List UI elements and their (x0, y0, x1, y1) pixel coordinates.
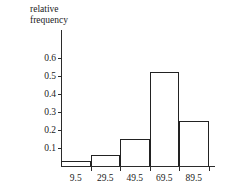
histogram-bar (179, 121, 209, 166)
y-tick-label: 0.5 (30, 71, 56, 81)
y-axis-line (61, 30, 62, 166)
x-tick-label: 49.5 (126, 173, 143, 183)
x-tick-mark (209, 167, 210, 171)
y-tick-label: 0.4 (30, 89, 56, 99)
y-tick-mark (58, 58, 62, 59)
histogram-bar (120, 139, 150, 166)
x-tick-label: 29.5 (97, 173, 114, 183)
x-tick-label: 69.5 (156, 173, 173, 183)
x-tick-mark (120, 167, 121, 171)
y-tick-label: 0.6 (30, 53, 56, 63)
y-tick-mark (58, 112, 62, 113)
y-tick-label: 0.3 (30, 107, 56, 117)
histogram-bar (61, 161, 91, 166)
x-tick-mark (91, 167, 92, 171)
y-tick-mark (58, 148, 62, 149)
y-tick-label: 0.1 (30, 143, 56, 153)
y-tick-mark (58, 130, 62, 131)
x-tick-mark (179, 167, 180, 171)
y-axis-label: relative frequency (30, 4, 68, 26)
x-axis-line (61, 166, 215, 167)
y-tick-mark (58, 94, 62, 95)
y-tick-label: 0.2 (30, 125, 56, 135)
y-tick-mark (58, 76, 62, 77)
x-tick-label: 89.5 (185, 173, 202, 183)
x-tick-mark (150, 167, 151, 171)
histogram-figure: relative frequency 0.60.50.40.30.20.1 9.… (0, 0, 229, 191)
histogram-bar (150, 72, 180, 166)
histogram-bar (91, 155, 121, 166)
x-tick-label: 9.5 (70, 173, 82, 183)
